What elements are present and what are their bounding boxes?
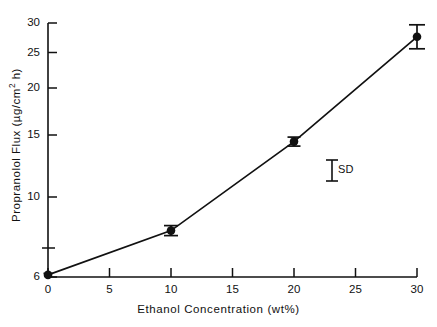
xtick-label-10: 10 (165, 284, 178, 296)
x-axis-title: Ethanol Concentration (wt%) (0, 303, 437, 315)
data-point-30 (413, 33, 422, 42)
chart-plot-area (0, 0, 437, 327)
xtick-label-25: 25 (349, 284, 362, 296)
xtick-label-0: 0 (45, 284, 51, 296)
axis-lines (48, 23, 417, 277)
xtick-label-30: 30 (411, 284, 424, 296)
sd-legend-glyph (326, 160, 338, 181)
xtick-label-5: 5 (106, 284, 112, 296)
sd-legend-label: SD (338, 163, 354, 175)
x-axis-ticks (48, 268, 417, 277)
data-point-10 (167, 226, 176, 235)
xtick-label-15: 15 (226, 284, 239, 296)
data-point-20 (290, 137, 299, 146)
figure-propranolol-flux-vs-ethanol: 30 25 20 15 10 6 0 5 10 15 20 25 30 Etha… (0, 0, 437, 327)
y-axis-title-prefix: Propranolol Flux (µg/cm (10, 88, 22, 222)
xtick-label-20: 20 (288, 284, 301, 296)
data-point-0 (44, 271, 53, 280)
y-axis-title-exponent: 2 (8, 83, 17, 88)
data-series-line (48, 37, 417, 275)
x-axis-title-text: Ethanol Concentration (wt%) (137, 303, 300, 315)
data-markers (44, 33, 422, 280)
error-bars (44, 25, 426, 277)
y-axis-title: Propranolol Flux (µg/cm2 h) (4, 0, 28, 290)
y-axis-title-suffix: h) (10, 68, 22, 83)
y-axis-ticks (42, 23, 57, 277)
